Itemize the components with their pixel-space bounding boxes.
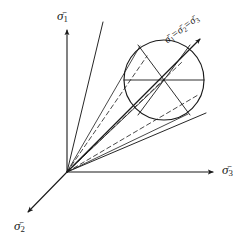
sigma3-subscript: 3	[228, 168, 233, 178]
sigma1-subscript: 1	[63, 14, 68, 24]
cone-generator-solid-5	[67, 114, 188, 172]
sigma2-axis	[28, 172, 67, 212]
cone-generator-solid-1	[67, 22, 103, 172]
stress-space-diagram	[0, 0, 249, 241]
cone-generator-solid-4	[67, 113, 206, 172]
sigma3-axis-label: σ̄3	[222, 163, 233, 178]
figure-canvas: σ̄1 σ̄2 σ̄3 σ̄1=σ̄2=σ̄3	[0, 0, 249, 241]
sigma1-axis-label: σ̄1	[57, 9, 68, 24]
sigma2-axis-label: σ̄2	[14, 219, 25, 234]
cone-generator-solid-2	[67, 46, 140, 172]
sigma2-subscript: 2	[20, 224, 25, 234]
